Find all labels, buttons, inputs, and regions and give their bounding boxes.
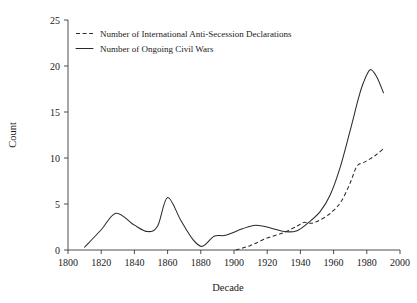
- x-tick-label-1940: 1940: [290, 257, 310, 268]
- x-tick-label-1860: 1860: [158, 257, 178, 268]
- y-tick-label-0: 0: [55, 245, 60, 256]
- x-tick-label-1840: 1840: [124, 257, 144, 268]
- x-tick-label-2000: 2000: [390, 257, 410, 268]
- x-tick-label-1800: 1800: [58, 257, 78, 268]
- x-tick-label-1900: 1900: [224, 257, 244, 268]
- y-axis-title: Count: [7, 122, 18, 148]
- line-chart: 0510152025 18001820184018601880190019201…: [0, 0, 417, 303]
- y-tick-label-25: 25: [50, 15, 60, 26]
- x-tick-label-1880: 1880: [191, 257, 211, 268]
- y-tick-label-15: 15: [50, 107, 60, 118]
- chart-figure: 0510152025 18001820184018601880190019201…: [0, 0, 417, 303]
- x-tick-label-1920: 1920: [257, 257, 277, 268]
- x-tick-label-1960: 1960: [324, 257, 344, 268]
- x-axis-tick-labels: 1800182018401860188019001920194019601980…: [58, 257, 410, 268]
- x-tick-label-1820: 1820: [91, 257, 111, 268]
- y-tick-label-20: 20: [50, 61, 60, 72]
- x-tick-label-1980: 1980: [357, 257, 377, 268]
- y-tick-label-5: 5: [55, 199, 60, 210]
- legend-label-anti-secession-declarations: Number of International Anti-Secession D…: [100, 29, 292, 39]
- y-tick-label-10: 10: [50, 153, 60, 164]
- legend-label-ongoing-civil-wars: Number of Ongoing Civil Wars: [100, 44, 214, 54]
- x-axis-title: Decade: [212, 282, 244, 293]
